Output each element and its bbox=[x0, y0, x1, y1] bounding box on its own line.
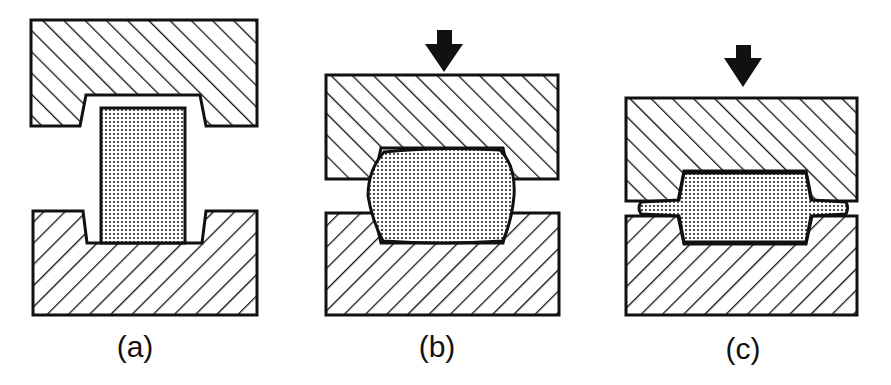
workpiece-billet bbox=[101, 108, 185, 243]
forging-diagram bbox=[0, 0, 891, 385]
panel-b bbox=[326, 30, 559, 315]
workpiece-deforming bbox=[368, 148, 514, 243]
panel-a bbox=[31, 20, 257, 315]
panel-label-c: (c) bbox=[726, 332, 761, 366]
press-arrow-icon bbox=[425, 30, 463, 72]
panel-c bbox=[626, 45, 857, 315]
press-arrow-icon bbox=[724, 45, 762, 87]
panel-label-a: (a) bbox=[117, 330, 154, 364]
panel-label-b: (b) bbox=[419, 330, 456, 364]
